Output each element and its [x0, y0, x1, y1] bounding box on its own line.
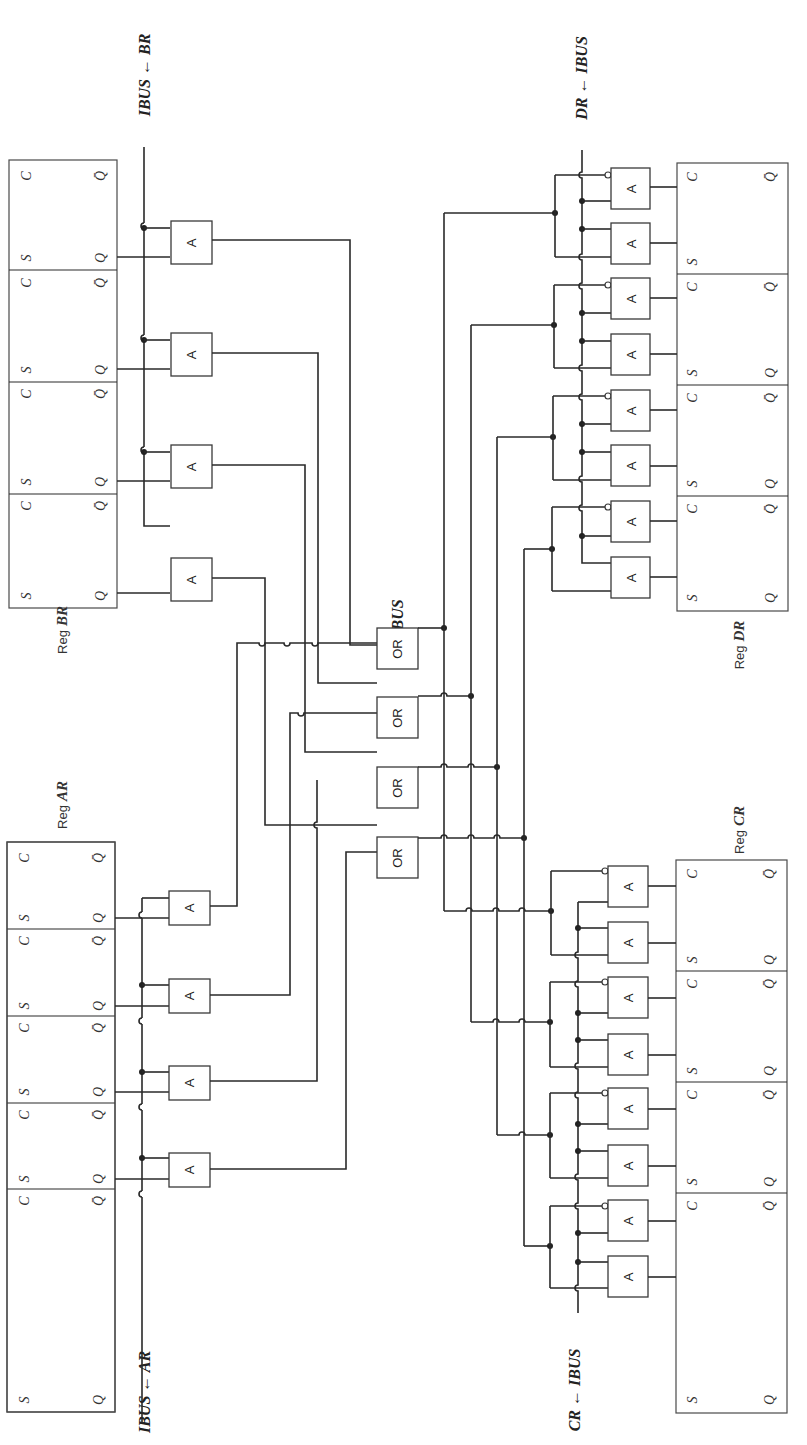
- svg-text:C: C: [17, 1110, 32, 1120]
- svg-text:C: C: [19, 171, 34, 181]
- svg-text:S: S: [685, 481, 700, 488]
- svg-text:C: C: [19, 278, 34, 288]
- svg-text:A: A: [621, 938, 636, 947]
- svg-text:A: A: [184, 238, 199, 247]
- svg-text:Q̄: Q̄: [91, 853, 106, 863]
- svg-text:A: A: [182, 903, 197, 912]
- svg-text:IBUS ← AR: IBUS ← AR: [136, 1351, 153, 1434]
- svg-text:Q: Q: [91, 1395, 106, 1405]
- svg-text:S: S: [17, 1003, 32, 1010]
- svg-text:S: S: [19, 255, 34, 262]
- svg-text:Q: Q: [91, 1174, 106, 1184]
- register-dr-label: RegDR: [731, 621, 747, 670]
- svg-text:Q: Q: [762, 1395, 777, 1405]
- svg-text:C: C: [17, 1023, 32, 1033]
- dr-and-gates: A A A A A A A A: [444, 168, 677, 598]
- svg-text:A: A: [621, 882, 636, 891]
- svg-text:Q̄: Q̄: [91, 1023, 106, 1033]
- svg-text:S: S: [685, 957, 700, 964]
- or-gates: IBUS OR OR OR OR: [377, 213, 527, 1246]
- svg-text:Q: Q: [762, 1177, 777, 1187]
- svg-text:S: S: [19, 593, 34, 600]
- svg-text:C: C: [685, 504, 700, 514]
- svg-text:S: S: [685, 1397, 700, 1404]
- register-cr: C Q̄ S Q C Q̄ S Q C Q̄ S Q C Q̄ S Q RegC…: [676, 806, 787, 1413]
- svg-text:S: S: [19, 367, 34, 374]
- svg-text:A: A: [624, 184, 639, 193]
- svg-text:A: A: [624, 517, 639, 526]
- svg-text:Q: Q: [93, 477, 108, 487]
- svg-text:OR: OR: [390, 708, 405, 728]
- svg-text:Q: Q: [91, 1087, 106, 1097]
- svg-text:A: A: [624, 461, 639, 470]
- svg-text:Q: Q: [763, 368, 778, 378]
- svg-text:DR ← IBUS: DR ← IBUS: [573, 36, 590, 121]
- svg-text:S: S: [685, 1179, 700, 1186]
- svg-text:A: A: [621, 993, 636, 1002]
- svg-text:Q̄: Q̄: [762, 869, 777, 879]
- svg-text:A: A: [624, 239, 639, 248]
- svg-text:A: A: [184, 462, 199, 471]
- svg-text:A: A: [182, 991, 197, 1000]
- svg-text:Q̄: Q̄: [93, 278, 108, 288]
- svg-text:OR: OR: [390, 778, 405, 798]
- svg-text:C: C: [17, 853, 32, 863]
- svg-text:C: C: [685, 172, 700, 182]
- register-br-label: RegBR: [54, 606, 70, 654]
- svg-text:S: S: [17, 1089, 32, 1096]
- svg-text:Q̄: Q̄: [762, 1090, 777, 1100]
- svg-text:Q̄: Q̄: [763, 393, 778, 403]
- svg-text:A: A: [184, 575, 199, 584]
- svg-text:Q: Q: [762, 955, 777, 965]
- svg-text:Q̄: Q̄: [762, 1201, 777, 1211]
- svg-text:Q̄: Q̄: [763, 282, 778, 292]
- svg-text:Q: Q: [93, 253, 108, 263]
- svg-text:Q: Q: [91, 1001, 106, 1011]
- register-dr: C Q̄ S C Q̄ S Q C Q̄ S Q C Q̄ S Q RegDR: [677, 163, 788, 669]
- dr-load-control: DR ← IBUS: [573, 36, 611, 563]
- svg-text:A: A: [624, 294, 639, 303]
- svg-text:S: S: [685, 370, 700, 377]
- svg-text:OR: OR: [390, 639, 405, 659]
- svg-text:IBUS ← BR: IBUS ← BR: [136, 33, 153, 117]
- svg-text:S: S: [685, 259, 700, 266]
- svg-text:Q̄: Q̄: [763, 172, 778, 182]
- svg-text:A: A: [182, 1078, 197, 1087]
- svg-text:A: A: [621, 1104, 636, 1113]
- cr-and-gates: A A A A A A A A: [444, 866, 676, 1297]
- svg-text:Q̄: Q̄: [762, 979, 777, 989]
- svg-text:S: S: [17, 915, 32, 922]
- svg-text:S: S: [17, 1176, 32, 1183]
- svg-text:Q: Q: [763, 593, 778, 603]
- svg-text:C: C: [685, 1201, 700, 1211]
- svg-text:C: C: [19, 501, 34, 511]
- svg-text:C: C: [17, 1196, 32, 1206]
- svg-text:C: C: [685, 1090, 700, 1100]
- svg-text:Q: Q: [93, 591, 108, 601]
- svg-text:C: C: [17, 936, 32, 946]
- svg-text:Q: Q: [91, 913, 106, 923]
- svg-text:A: A: [624, 406, 639, 415]
- svg-text:A: A: [621, 1050, 636, 1059]
- register-ar-label: RegAR: [54, 781, 70, 829]
- svg-text:C: C: [19, 389, 34, 399]
- svg-text:C: C: [685, 282, 700, 292]
- svg-text:C: C: [685, 869, 700, 879]
- svg-text:Q̄: Q̄: [93, 501, 108, 511]
- svg-text:Q: Q: [93, 365, 108, 375]
- svg-text:A: A: [621, 1272, 636, 1281]
- svg-text:Q̄: Q̄: [91, 1110, 106, 1120]
- register-br: C Q̄ S Q C Q̄ S Q C Q̄ S Q C Q̄ S Q RegB…: [9, 160, 117, 654]
- svg-text:S: S: [685, 1068, 700, 1075]
- svg-text:Q: Q: [763, 479, 778, 489]
- svg-text:S: S: [19, 479, 34, 486]
- svg-text:Q̄: Q̄: [763, 504, 778, 514]
- svg-text:Q̄: Q̄: [91, 1196, 106, 1206]
- register-cr-label: RegCR: [731, 806, 747, 854]
- svg-text:A: A: [182, 1165, 197, 1174]
- svg-text:S: S: [17, 1397, 32, 1404]
- br-output-control: IBUS ← BR: [117, 33, 170, 593]
- circuit-diagram: C Q̄ S Q C Q̄ S Q C Q̄ S Q C Q̄ S Q RegB…: [0, 0, 807, 1445]
- ar-output-control: IBUS ← AR: [115, 898, 170, 1434]
- svg-text:C: C: [685, 979, 700, 989]
